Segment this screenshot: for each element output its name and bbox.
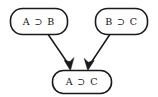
edge-premise-2-to-conclusion (84, 34, 110, 71)
node-premise-2[interactable]: B ⊃ C (96, 9, 148, 35)
edge-line-left (48, 34, 70, 66)
node-conclusion-label: A ⊃ C (65, 76, 99, 87)
node-premise-1-label: A ⊃ B (22, 16, 55, 27)
node-premise-1[interactable]: A ⊃ B (11, 9, 68, 35)
node-premise-2-label: B ⊃ C (105, 16, 138, 27)
inference-diagram: A ⊃ B B ⊃ C A ⊃ C (0, 0, 158, 97)
node-conclusion[interactable]: A ⊃ C (53, 71, 112, 94)
edge-line-right (90, 34, 111, 66)
edge-premise-1-to-conclusion (48, 34, 75, 71)
diagram-canvas: A ⊃ B B ⊃ C A ⊃ C (0, 0, 158, 97)
